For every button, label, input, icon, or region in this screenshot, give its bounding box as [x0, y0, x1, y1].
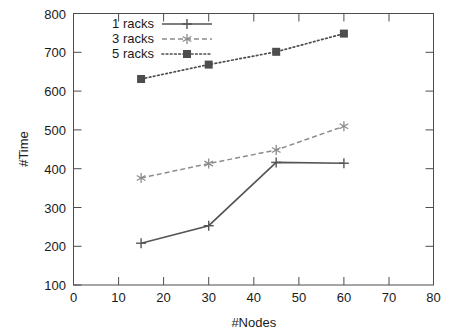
y-tick-label: 200	[44, 239, 66, 254]
y-tick-label: 500	[44, 123, 66, 138]
y-tick-label: 700	[44, 45, 66, 60]
line-chart: 800 700 600 500 400 300 200 100 0 10 20 …	[0, 0, 454, 334]
x-axis-title: #Nodes	[231, 315, 276, 330]
x-tick-label: 60	[337, 290, 351, 305]
x-tick-label: 30	[201, 290, 215, 305]
x-tick-label: 80	[426, 290, 440, 305]
x-tick-label: 70	[382, 290, 396, 305]
y-tick-label: 600	[44, 84, 66, 99]
y-axis-title: #Time	[16, 131, 31, 167]
x-tick-labels: 0 10 20 30 40 50 60 70 80	[70, 290, 441, 305]
y-tick-label: 300	[44, 201, 66, 216]
y-tick-label: 100	[44, 278, 66, 293]
legend-label-3-racks: 3 racks	[112, 31, 154, 46]
y-tick-label: 400	[44, 162, 66, 177]
x-tick-label: 0	[70, 290, 77, 305]
y-tick-label: 800	[44, 7, 66, 22]
x-tick-label: 20	[156, 290, 170, 305]
chart-container: 800 700 600 500 400 300 200 100 0 10 20 …	[0, 0, 454, 334]
x-tick-label: 40	[247, 290, 261, 305]
x-tick-label: 50	[292, 290, 306, 305]
legend-label-5-racks: 5 racks	[112, 46, 154, 61]
x-tick-label: 10	[111, 290, 125, 305]
chart-background	[0, 0, 454, 334]
legend-label-1-racks: 1 racks	[112, 16, 154, 31]
